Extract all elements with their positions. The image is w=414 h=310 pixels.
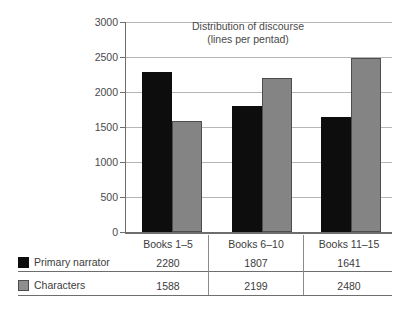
cell-primary-narrator-books-6-10: 1807 xyxy=(213,257,299,269)
ytick-label-500: 500 xyxy=(82,192,118,202)
column-header-books-11-15: Books 11–15 xyxy=(306,238,392,250)
bar-primary-narrator-books-11-15[interactable] xyxy=(321,117,351,232)
table-rule-middle xyxy=(18,271,392,272)
column-header-books-1-5: Books 1–5 xyxy=(128,238,208,250)
bar-chart-plot: 3000 2500 2000 1500 1000 500 0 Distribut… xyxy=(0,0,414,238)
table-rule-bottom xyxy=(18,295,392,296)
legend-item-primary-narrator[interactable]: Primary narrator xyxy=(18,256,110,268)
legend-label-primary-narrator: Primary narrator xyxy=(34,256,110,268)
chart-figure: 3000 2500 2000 1500 1000 500 0 Distribut… xyxy=(0,0,414,310)
bar-primary-narrator-books-1-5[interactable] xyxy=(142,72,172,232)
black-square-swatch-icon xyxy=(18,257,29,268)
gray-square-swatch-icon xyxy=(18,280,29,291)
legend-item-characters[interactable]: Characters xyxy=(18,279,85,291)
cell-characters-books-1-5: 1588 xyxy=(128,280,208,292)
table-divider-2 xyxy=(303,235,304,295)
bars-layer xyxy=(125,22,392,232)
ytick-label-1500: 1500 xyxy=(82,122,118,132)
bar-primary-narrator-books-6-10[interactable] xyxy=(232,106,262,232)
ytick-label-2500: 2500 xyxy=(82,52,118,62)
data-table: Books 1–5 Books 6–10 Books 11–15 Primary… xyxy=(0,233,414,310)
ytick-label-1000: 1000 xyxy=(82,157,118,167)
cell-characters-books-6-10: 2199 xyxy=(213,280,299,292)
bar-characters-books-1-5[interactable] xyxy=(172,121,202,232)
table-rule-top xyxy=(125,233,392,234)
ytick-label-3000: 3000 xyxy=(82,17,118,27)
column-header-books-6-10: Books 6–10 xyxy=(213,238,299,250)
cell-primary-narrator-books-11-15: 1641 xyxy=(306,257,392,269)
ytick-label-2000: 2000 xyxy=(82,87,118,97)
cell-primary-narrator-books-1-5: 2280 xyxy=(128,257,208,269)
bar-characters-books-6-10[interactable] xyxy=(262,78,292,232)
table-divider-1 xyxy=(208,235,209,295)
bar-characters-books-11-15[interactable] xyxy=(351,58,381,232)
legend-label-characters: Characters xyxy=(34,279,85,291)
cell-characters-books-11-15: 2480 xyxy=(306,280,392,292)
